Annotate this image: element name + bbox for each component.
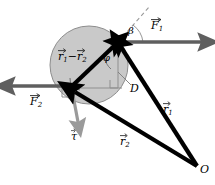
r1-sub: 1 xyxy=(168,109,172,117)
r2-label: r2 xyxy=(120,136,130,149)
vector-arrow-overline-icon xyxy=(71,128,76,133)
vector-arrow-overline-icon xyxy=(30,93,41,98)
angle-arc-beta xyxy=(133,25,143,42)
physics-diagram-figure: r1−r2 F1 F2 τ r1 r2 β φ D O xyxy=(0,0,215,185)
beta-angle-label: β xyxy=(128,26,134,36)
torque-term: τ xyxy=(71,131,77,142)
force2-label: F2 xyxy=(30,96,42,109)
r2-term-label: r2 xyxy=(120,136,130,149)
phi-angle-label: φ xyxy=(103,53,110,63)
force1-label: F1 xyxy=(151,20,163,33)
r1-term: r1 xyxy=(58,51,68,64)
force2-sub: 2 xyxy=(38,101,42,109)
origin-point-label: O xyxy=(200,164,209,175)
force1-term: F1 xyxy=(151,20,163,33)
r1-label: r1 xyxy=(163,104,173,117)
force1-sub: 1 xyxy=(159,25,163,33)
vector-arrow-overline-icon xyxy=(120,133,129,138)
r2-vector-arrow xyxy=(75,92,197,166)
force2-term: F2 xyxy=(30,96,42,109)
r2-sub: 2 xyxy=(125,141,129,149)
r-difference-sub1: 1 xyxy=(63,56,67,64)
vector-arrow-overline-icon xyxy=(58,48,67,53)
vector-arrow-overline-icon xyxy=(163,101,172,106)
lever-arm-label: D xyxy=(130,83,139,94)
minus-operator: − xyxy=(68,50,77,63)
torque-label: τ xyxy=(71,131,77,142)
vector-arrow-overline-icon xyxy=(77,48,86,53)
r2-term: r2 xyxy=(77,51,87,64)
r1-term-label: r1 xyxy=(163,104,173,117)
r-difference-sub2: 2 xyxy=(82,56,86,64)
vector-arrow-overline-icon xyxy=(151,17,162,22)
r-difference-label: r1−r2 xyxy=(58,51,87,64)
r1-vector-arrow xyxy=(121,47,197,166)
